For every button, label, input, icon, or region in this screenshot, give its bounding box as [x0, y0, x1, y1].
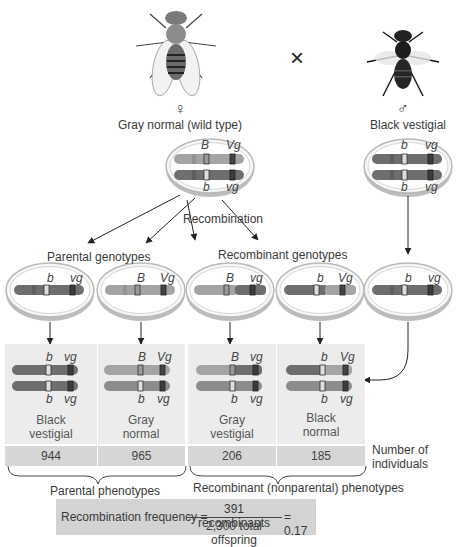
gene-label: vg [425, 180, 438, 194]
female-symbol: ♀ [160, 100, 200, 118]
count-black-normal: 185 [277, 446, 365, 466]
gene-label: B [137, 271, 145, 285]
male-symbol: ♂ [380, 100, 426, 118]
gene-label: b [46, 392, 53, 406]
gene-label: vg [250, 271, 263, 285]
female-fly-icon [136, 11, 216, 97]
gene-label: Vg [340, 350, 355, 364]
gene-label: b [138, 392, 145, 406]
formula-result: = 0.17 [284, 510, 316, 538]
gene-label: vg [70, 271, 83, 285]
recombinant-genotypes-label: Recombinant genotypes [218, 248, 347, 262]
count-black-vestigial: 944 [5, 446, 97, 466]
gene-label: vg [425, 138, 438, 152]
recombination-label: Recombination [183, 212, 263, 226]
gene-label: Vg [157, 350, 172, 364]
gene-label: Vg [160, 271, 175, 285]
gene-label: vg [226, 180, 239, 194]
formula-denominator: 2,300 total offspring [184, 519, 284, 547]
gene-label: b [231, 392, 238, 406]
gene-label: b [47, 271, 54, 285]
gene-label: B [201, 138, 209, 152]
parental-phenotypes-label: Parental phenotypes [50, 484, 160, 498]
gene-label: B [231, 350, 239, 364]
phenotype-label: normal [274, 425, 368, 441]
count-gray-vestigial: 206 [188, 446, 276, 466]
phenotype-label: normal [94, 427, 188, 443]
gene-label: vg [64, 392, 77, 406]
gene-label: vg [250, 350, 263, 364]
male-fly-icon [367, 30, 439, 96]
recombination-frequency-formula: Recombination frequency = 391 recombinan… [56, 499, 316, 535]
fraction-bar [186, 517, 282, 518]
gene-label: b [401, 138, 408, 152]
gene-label: b [405, 271, 412, 285]
recombinant-phenotypes-label: Recombinant (nonparental) phenotypes [193, 481, 404, 495]
gene-label: b [321, 350, 328, 364]
gene-label: vg [250, 392, 263, 406]
phenotype-label: vestigial [185, 427, 279, 443]
phenotype-label: vestigial [4, 427, 98, 443]
gene-label: vg [64, 350, 77, 364]
gene-label: Vg [338, 271, 353, 285]
gene-label: b [321, 392, 328, 406]
gene-label: B [138, 350, 146, 364]
gene-label: b [46, 350, 53, 364]
cross-symbol: × [290, 44, 304, 72]
number-of-individuals-label: Number of [372, 443, 428, 457]
gene-label: vg [157, 392, 170, 406]
gene-label: Vg [226, 138, 241, 152]
female-parent-label: Gray normal (wild type) [110, 118, 250, 132]
gene-label: vg [340, 392, 353, 406]
gene-label: vg [428, 271, 441, 285]
count-gray-normal: 965 [98, 446, 185, 466]
gene-label: b [203, 180, 210, 194]
gene-label: b [401, 180, 408, 194]
number-of-individuals-label-2: individuals [372, 457, 428, 471]
gene-label: B [226, 271, 234, 285]
male-parent-label: Black vestigial [353, 118, 462, 132]
parental-genotypes-label: Parental genotypes [47, 250, 150, 264]
gene-label: b [317, 271, 324, 285]
